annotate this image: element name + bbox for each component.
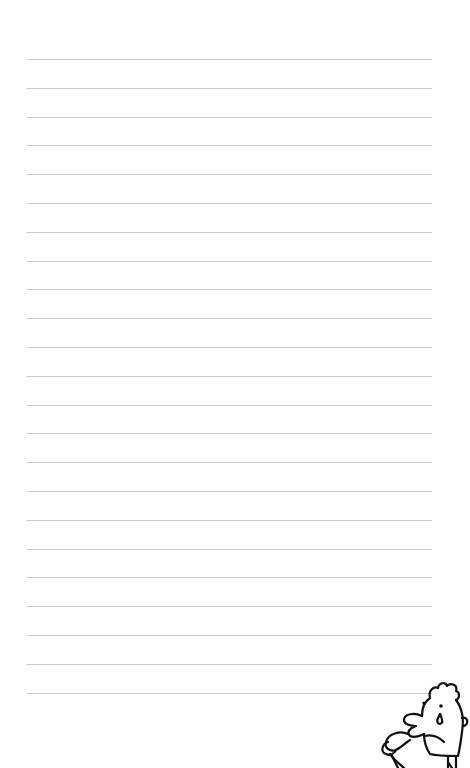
ruled-line bbox=[27, 232, 432, 233]
ruled-line bbox=[27, 88, 432, 89]
ruled-line bbox=[27, 520, 432, 521]
ruled-line bbox=[27, 462, 432, 463]
ruled-line bbox=[27, 203, 432, 204]
ruled-line bbox=[27, 405, 432, 406]
ruled-line bbox=[27, 174, 432, 175]
ruled-line bbox=[27, 318, 432, 319]
crying-cartoon-man-icon bbox=[368, 676, 470, 768]
ruled-line bbox=[27, 117, 432, 118]
ruled-line bbox=[27, 635, 432, 636]
ruled-line bbox=[27, 606, 432, 607]
ruled-line bbox=[27, 347, 432, 348]
ruled-line bbox=[27, 433, 432, 434]
ruled-line bbox=[27, 376, 432, 377]
ruled-line bbox=[27, 549, 432, 550]
ruled-line bbox=[27, 664, 432, 665]
ruled-line bbox=[27, 289, 432, 290]
ruled-line bbox=[27, 145, 432, 146]
ruled-line bbox=[27, 491, 432, 492]
ruled-line bbox=[27, 577, 432, 578]
ruled-line bbox=[27, 261, 432, 262]
notebook-page bbox=[0, 0, 470, 768]
ruled-line bbox=[27, 59, 432, 60]
